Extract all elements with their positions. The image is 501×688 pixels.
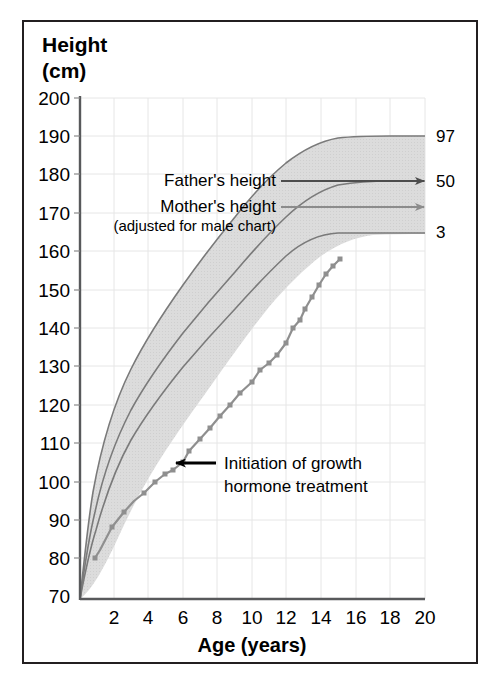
y-tick-130: 130	[38, 356, 70, 377]
x-tick-10: 10	[241, 607, 262, 628]
y-tick-200: 200	[38, 88, 70, 109]
percentile-label-50: 50	[436, 172, 455, 191]
x-tick-6: 6	[178, 607, 189, 628]
y-axis-title-line2: (cm)	[42, 59, 86, 82]
y-tick-180: 180	[38, 164, 70, 185]
x-tick-2: 2	[109, 607, 120, 628]
percentile-label-3: 3	[436, 223, 445, 242]
mothers-height-sublabel: (adjusted for male chart)	[113, 217, 276, 234]
mothers-height-label: Mother's height	[160, 197, 276, 216]
x-tick-20: 20	[414, 607, 435, 628]
y-tick-90: 90	[49, 510, 70, 531]
y-tick-160: 160	[38, 241, 70, 262]
y-tick-150: 150	[38, 280, 70, 301]
fathers-height-label: Father's height	[164, 171, 276, 190]
y-tick-100: 100	[38, 472, 70, 493]
y-tick-120: 120	[38, 395, 70, 416]
y-tick-140: 140	[38, 318, 70, 339]
x-tick-14: 14	[310, 607, 332, 628]
y-axis-tick-labels: 200 190 180 170 160 150 140 130 120 110 …	[38, 88, 70, 607]
y-tick-110: 110	[40, 433, 70, 454]
x-axis-title: Age (years)	[198, 634, 307, 656]
x-tick-4: 4	[143, 607, 154, 628]
y-tick-80: 80	[49, 548, 70, 569]
percentile-label-97: 97	[436, 127, 455, 146]
x-tick-18: 18	[379, 607, 400, 628]
y-tick-170: 170	[38, 203, 70, 224]
x-tick-12: 12	[275, 607, 296, 628]
x-axis-tick-labels: 2 4 6 8 10 12 14 16 18 20	[109, 607, 436, 628]
x-tick-8: 8	[212, 607, 223, 628]
x-tick-16: 16	[345, 607, 366, 628]
y-axis-title-line1: Height	[42, 33, 107, 56]
chart-frame: Height (cm)	[22, 20, 478, 664]
growth-chart: Height (cm)	[24, 22, 476, 662]
y-tick-70: 70	[49, 586, 70, 607]
y-tick-190: 190	[38, 126, 70, 147]
gh-treatment-label-line1: Initiation of growth	[224, 454, 362, 473]
gh-treatment-label-line2: hormone treatment	[224, 477, 368, 496]
